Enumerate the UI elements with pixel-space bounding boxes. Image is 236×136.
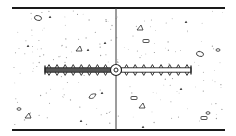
aggregate-chip [80,120,83,122]
speckle [25,40,26,41]
waterstop-rib [71,72,75,75]
speckle [203,80,204,81]
speckle [47,117,48,118]
speckle [100,47,101,48]
speckle [154,43,155,44]
speckle [88,19,89,20]
aggregate-pebble [206,112,210,115]
waterstop-rib [168,65,172,68]
speckle [132,35,133,36]
waterstop-rib [142,65,146,68]
aggregate-chip [104,42,107,44]
speckle [63,97,64,98]
waterstop-rib [104,65,108,68]
speckle [14,124,15,125]
speckle [117,17,118,18]
waterstop-rib [142,72,146,75]
speckle [48,11,49,12]
waterstop-rib [47,72,51,75]
speckle [15,98,16,99]
speckle [202,23,203,24]
speckle [66,57,67,58]
speckle [187,30,188,31]
speckle [65,25,66,26]
aggregate-chip [101,92,104,94]
speckle [214,70,215,71]
aggregate-pebble [216,49,220,52]
waterstop-web [45,68,111,72]
waterstop-bulb-hole [114,68,118,72]
speckle [84,75,85,76]
speckle [24,53,25,54]
speckle [61,46,62,47]
speckle [163,85,164,86]
speckle [153,122,154,123]
waterstop-rib [125,72,129,75]
waterstop-rib [104,72,108,75]
aggregate-pebble [143,40,149,43]
speckle [31,18,32,19]
speckle [31,13,32,14]
speckle [110,29,111,30]
waterstop-rib [133,65,137,68]
speckle [49,103,50,104]
waterstop-left-flange [45,65,111,76]
speckle [70,99,71,100]
waterstop-rib [79,65,83,68]
speckle [175,51,176,52]
speckle [179,93,180,94]
speckle [101,114,102,115]
speckle [44,28,45,29]
speckle [194,62,195,63]
waterstop-rib [96,65,100,68]
aggregate-pebble [89,94,96,99]
speckle [212,11,213,12]
speckle [178,117,179,118]
aggregate-pebble [137,25,143,30]
speckle [141,55,142,56]
speckle [124,47,125,48]
waterstop-rib [88,65,92,68]
speckle [216,118,217,119]
speckle [160,99,161,100]
speckle [71,51,72,52]
speckle [50,89,51,90]
speckle [221,109,222,110]
speckle [220,84,221,85]
speckle [195,87,196,88]
speckle [131,92,132,93]
speckle [41,48,42,49]
speckle [64,94,65,95]
speckle [144,21,145,22]
speckle [215,81,216,82]
speckle [77,14,78,15]
speckle [118,116,119,117]
speckle [30,112,31,113]
aggregate-chip [185,21,188,23]
speckle [43,54,44,55]
waterstop-rib [47,65,51,68]
speckle [32,35,33,36]
speckle [106,21,107,22]
aggregate-pebble [196,51,204,57]
speckle [198,65,199,66]
speckle [100,55,101,56]
speckle [170,85,171,86]
speckle [53,59,54,60]
speckle [38,40,39,41]
speckle [137,50,138,51]
speckle [66,46,67,47]
speckle [212,46,213,47]
speckle [58,56,59,57]
waterstop-rib [159,65,163,68]
speckle [85,37,86,38]
aggregate-pebble [76,46,82,51]
speckle [64,62,65,63]
speckle [172,78,173,79]
speckle [78,39,79,40]
speckle [13,67,14,68]
speckle [133,117,134,118]
speckle [167,41,168,42]
aggregate-chip [49,16,52,18]
speckle [111,40,112,41]
